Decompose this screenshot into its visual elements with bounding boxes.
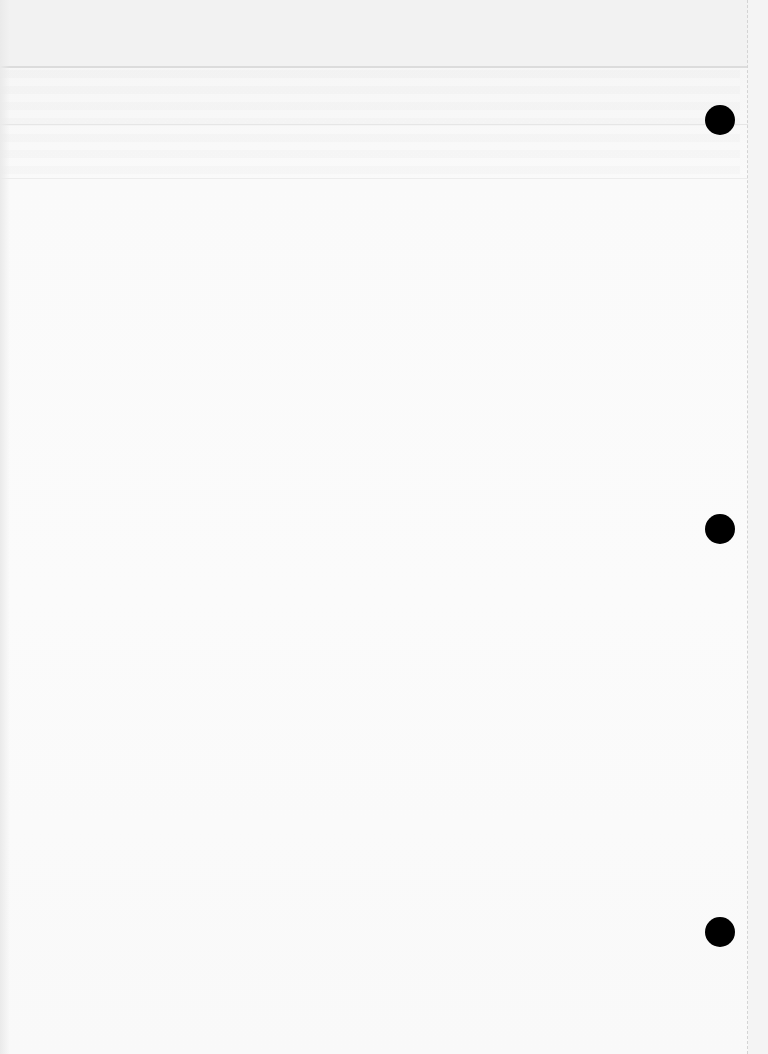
tear-off-strip [748,0,768,1054]
horizontal-rule [0,66,768,68]
bleed-through-texture [0,70,740,180]
punch-hole-bottom [705,917,735,947]
scanned-page [0,0,768,1054]
page-left-edge-shadow [0,0,10,1054]
punch-hole-top [705,105,735,135]
perforation-line [747,0,748,1054]
header-band [0,0,768,66]
punch-hole-middle [705,514,735,544]
horizontal-rule [0,124,768,125]
horizontal-rule [0,178,768,179]
